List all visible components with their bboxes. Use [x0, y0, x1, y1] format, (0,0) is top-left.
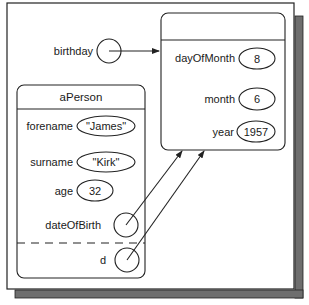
- field-label: dateOfBirth: [45, 219, 101, 231]
- field-value: 1957: [244, 126, 268, 138]
- field-value: "James": [86, 120, 126, 132]
- field-value: "Kirk": [93, 156, 120, 168]
- field-label: month: [204, 93, 235, 105]
- field-label: surname: [30, 156, 73, 168]
- outer-frame: [7, 3, 294, 289]
- field-value: 6: [254, 93, 260, 105]
- birthday-label: birthday: [54, 45, 94, 57]
- field-value: 32: [89, 185, 101, 197]
- field-label: forename: [27, 120, 73, 132]
- field-value: 8: [254, 53, 260, 65]
- field-label: year: [213, 126, 235, 138]
- person-object-title: aPerson: [60, 91, 103, 103]
- field-label: d: [100, 254, 106, 266]
- field-label: dayOfMonth: [175, 52, 235, 64]
- field-label: age: [55, 185, 73, 197]
- object-reference-diagram: birthday dayOfMonth 8 month 6 year 1957 …: [0, 0, 309, 305]
